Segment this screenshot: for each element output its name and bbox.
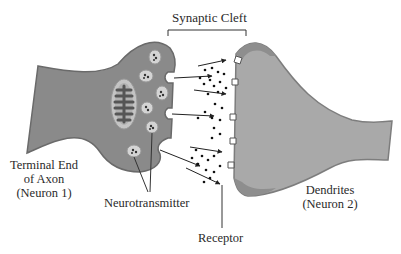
neurotransmitter-label: Neurotransmitter (104, 196, 189, 210)
dendrite-label-line2: (Neuron 2) (295, 197, 365, 211)
axon-label-line1: Terminal End (4, 158, 84, 172)
cleft-bracket (168, 30, 246, 36)
axon-terminal (27, 42, 175, 172)
receptor-label: Receptor (198, 231, 243, 245)
dendrite-label-line1: Dendrites (295, 183, 365, 197)
dendrite-label: Dendrites (Neuron 2) (295, 183, 365, 211)
synaptic-cleft-label: Synaptic Cleft (172, 11, 247, 25)
axon-label: Terminal End of Axon (Neuron 1) (4, 158, 84, 200)
synapse-illustration (0, 0, 401, 254)
dendrite (234, 43, 392, 196)
synapse-diagram: Synaptic Cleft Terminal End of Axon (Neu… (0, 0, 401, 254)
axon-label-line2: of Axon (4, 172, 84, 186)
mitochondrion (111, 79, 137, 129)
neurotransmitter-molecules (191, 67, 228, 184)
axon-label-line3: (Neuron 1) (4, 186, 84, 200)
